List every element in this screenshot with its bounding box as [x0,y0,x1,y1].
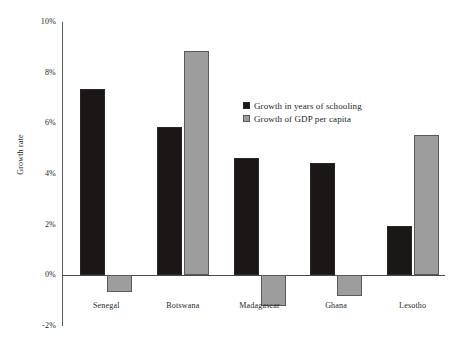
bar-ghana-series-1 [337,275,362,295]
legend-label: Growth of GDP per capita [254,114,351,124]
bar-botswana-series-1 [184,51,209,275]
y-axis-tick: 2% [22,221,56,229]
chart-legend: Growth in years of schoolingGrowth of GD… [243,99,362,125]
x-axis-category-label: Lesotho [363,301,463,310]
legend-label: Growth in years of schooling [254,101,362,111]
legend-swatch-icon [243,102,250,109]
bar-lesotho-series-1 [414,135,439,276]
legend-item: Growth in years of schooling [243,99,362,112]
y-axis-tick: 6% [22,119,56,127]
bar-ghana-series-0 [310,163,335,276]
y-axis-tick-labels: 10%8%6%4%2%0%-2% [22,0,56,346]
y-axis-tick: 10% [22,18,56,26]
legend-swatch-icon [243,115,250,122]
y-axis-tick: 8% [22,69,56,77]
bar-lesotho-series-0 [387,226,412,275]
bar-madagascar-series-0 [234,158,259,276]
bar-senegal-series-0 [80,89,105,275]
plot-area: SenegalBotswanaMadagascarGhanaLesotho [62,22,445,326]
bar-chart: Growth rate 10%8%6%4%2%0%-2% SenegalBots… [0,0,463,346]
y-axis-tick: -2% [22,322,56,330]
bar-botswana-series-0 [157,127,182,275]
y-axis-tick: 4% [22,170,56,178]
y-axis-line [62,22,63,326]
legend-item: Growth of GDP per capita [243,112,362,125]
y-axis-tick: 0% [22,271,56,279]
bar-senegal-series-1 [107,275,132,291]
